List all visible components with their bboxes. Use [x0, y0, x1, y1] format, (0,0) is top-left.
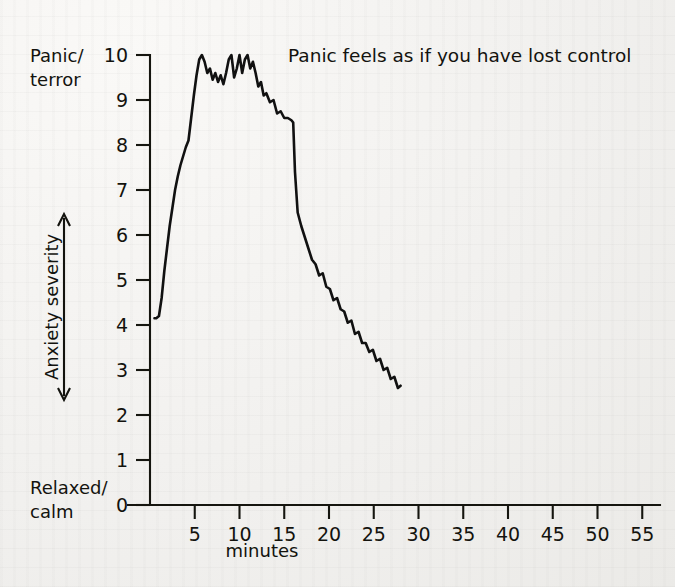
chart-canvas: Panic feels as if you have lost control … — [0, 0, 675, 587]
y-tick-label-5: 5 — [116, 269, 128, 291]
data-series-line — [154, 55, 400, 388]
x-tick-label-5: 5 — [189, 523, 201, 545]
x-tick-label-55: 55 — [630, 523, 654, 545]
x-tick-label-25: 25 — [362, 523, 386, 545]
y-tick-label-0: 0 — [116, 494, 128, 516]
y-tick-label-4: 4 — [116, 314, 128, 336]
anxiety-severity-chart: Panic feels as if you have lost control … — [0, 0, 675, 587]
x-axis-title: minutes — [226, 540, 299, 561]
y-tick-label-6: 6 — [116, 224, 128, 246]
x-tick-label-45: 45 — [541, 523, 565, 545]
y-axis-bottom-label-line2: calm — [30, 501, 73, 522]
x-axis-ticks: 510152025303540455055 — [189, 505, 655, 545]
x-tick-label-30: 30 — [406, 523, 430, 545]
y-tick-label-8: 8 — [116, 134, 128, 156]
y-axis-top-label-line1: Panic/ — [30, 45, 84, 66]
x-tick-label-20: 20 — [317, 523, 341, 545]
y-axis-title-group: Anxiety severity — [41, 214, 70, 400]
y-tick-label-9: 9 — [116, 89, 128, 111]
x-tick-label-35: 35 — [451, 523, 475, 545]
y-tick-label-2: 2 — [116, 404, 128, 426]
y-tick-label-10: 10 — [104, 44, 128, 66]
y-axis-bottom-label-line1: Relaxed/ — [30, 477, 108, 498]
y-axis-title: Anxiety severity — [41, 234, 62, 381]
y-axis-ticks: 012345678910 — [104, 44, 150, 516]
x-tick-label-50: 50 — [585, 523, 609, 545]
x-tick-label-40: 40 — [496, 523, 520, 545]
y-tick-label-7: 7 — [116, 179, 128, 201]
y-tick-label-3: 3 — [116, 359, 128, 381]
y-axis-top-label-line2: terror — [30, 69, 81, 90]
y-tick-label-1: 1 — [116, 449, 128, 471]
chart-title: Panic feels as if you have lost control — [288, 45, 631, 66]
